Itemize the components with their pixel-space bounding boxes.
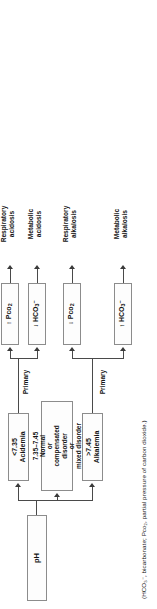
connector-acidemia-to-hco3down [37,351,38,359]
result-respiratory-acidosis-line2: acidosis [8,189,16,259]
connector-acidemia-stem [18,359,19,413]
arrowhead-metabolic-alkalosis [120,265,126,269]
connector-hco3down-to-result [37,269,38,283]
measure-sup-hco3-down: − [32,300,38,303]
node-normal-line6: or [68,443,75,449]
arrowhead-respiratory-acidosis [7,265,13,269]
connector-trunk [18,500,93,501]
diagram-rotation-wrapper: pH <7.35 Acidemia Primary ↑ [0,0,157,609]
connector-alkalemia-split [72,358,123,359]
node-alkalemia: >7.45 Alkalemia [82,413,103,481]
node-alkalemia-value: >7.45 [85,438,93,456]
arrow-glyph-down-hco3: ↓ [32,324,39,328]
result-respiratory-alkalosis-line2: alkalosis [70,189,78,259]
connector-pco2down-to-result [72,269,73,283]
result-respiratory-alkalosis-line1: Respiratory [62,189,70,259]
connector-trunk-to-acidemia [18,487,19,501]
node-alkalemia-name: Alkalemia [93,431,101,464]
node-ph-label: pH [33,553,41,563]
arrowhead-metabolic-acidosis [34,265,40,269]
connector-hco3up-to-result [123,269,124,283]
connector-pco2up-to-result [10,269,11,283]
node-pco2-up: ↑ Pco2 [1,283,19,345]
flowchart-canvas: pH <7.35 Acidemia Primary ↑ [0,0,157,609]
arrowhead-alkalemia [89,483,95,487]
node-pco2-down-label: ↓ Pco2 [67,303,76,324]
measure-text-hco3-up: HCO [118,307,125,323]
measure-sub-hco3-up: 3 [121,304,127,307]
node-normal-line4: compensated [53,425,60,466]
result-metabolic-alkalosis-line2: alkalosis [121,189,129,259]
arrowhead-hco3-down [34,347,40,351]
connector-trunk-to-normal [57,497,58,501]
arrowhead-respiratory-alkalosis [69,265,75,269]
measure-text-pco2-down: Pco [67,306,74,319]
node-pco2-down: ↓ Pco2 [63,283,81,345]
result-metabolic-acidosis-line1: Metabolic [27,189,35,259]
measure-sub-pco2-up: 2 [8,303,14,306]
arrowhead-hco3-up [120,347,126,351]
connector-acidemia-split [10,358,37,359]
result-metabolic-acidosis-line2: acidosis [35,189,43,259]
connector-alkalemia-stem [92,359,93,413]
arrowhead-pco2-up [7,347,13,351]
connector-alkalemia-to-hco3up [123,351,124,359]
arrowhead-normal [54,493,60,497]
arrowhead-acidemia [15,483,21,487]
measure-sub-hco3-down: 3 [35,304,41,307]
measure-text-pco2-up: Pco [5,306,12,319]
connector-acidemia-to-pco2up [10,351,11,359]
node-pco2-up-label: ↑ Pco2 [5,303,14,324]
node-hco3-up-label: ↑ HCO3− [118,300,127,327]
arrowhead-pco2-down [69,347,75,351]
measure-sup-hco3-up: − [118,300,124,303]
figure-footnote: (HCO₃⁻, bicarbonate; Pco₂, partial press… [140,420,147,599]
node-ph: pH [27,515,47,601]
node-normal-line3: or [46,443,53,449]
node-acidemia-value: <7.35 [11,438,19,456]
node-acidemia-name: Acidemia [19,431,27,462]
node-hco3-down-label: ↓ HCO3− [32,300,41,327]
result-metabolic-alkalosis: Metabolic alkalosis [113,189,129,259]
measure-text-hco3-down: HCO [32,307,39,323]
label-primary-acidemia: Primary [22,361,30,403]
connector-ph-stem [36,501,37,515]
node-normal-line2: Normal [39,435,46,457]
result-respiratory-acidosis: Respiratory acidosis [0,189,16,259]
label-primary-alkalemia: Primary [99,361,107,403]
result-metabolic-acidosis: Metabolic acidosis [27,189,43,259]
arrow-glyph-down-pco2: ↓ [67,321,74,325]
node-normal-range: 7.35–7.45 [32,432,39,460]
connector-trunk-to-alkalemia [92,487,93,501]
arrow-glyph-up-pco2: ↑ [5,321,12,325]
node-hco3-up: ↑ HCO3− [114,283,132,345]
result-metabolic-alkalosis-line1: Metabolic [113,189,121,259]
node-acidemia: <7.35 Acidemia [8,413,29,481]
measure-sub-pco2-down: 2 [70,303,76,306]
result-respiratory-acidosis-line1: Respiratory [0,189,8,259]
result-respiratory-alkalosis: Respiratory alkalosis [62,189,78,259]
node-hco3-down: ↓ HCO3− [28,283,46,345]
arrow-glyph-up-hco3: ↑ [118,324,125,328]
connector-alkalemia-to-pco2down [72,351,73,359]
node-normal-compensated: 7.35–7.45 Normal or compensated disorder… [41,401,73,491]
node-normal-line5: disorder [61,433,68,459]
